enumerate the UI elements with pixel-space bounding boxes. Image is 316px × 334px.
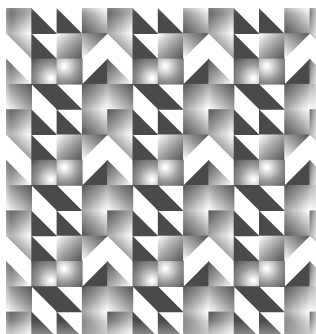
geometric-quilt-pattern (0, 0, 316, 334)
pattern-artboard: Grayscale Geometric Quilt Pattern (0, 0, 316, 334)
